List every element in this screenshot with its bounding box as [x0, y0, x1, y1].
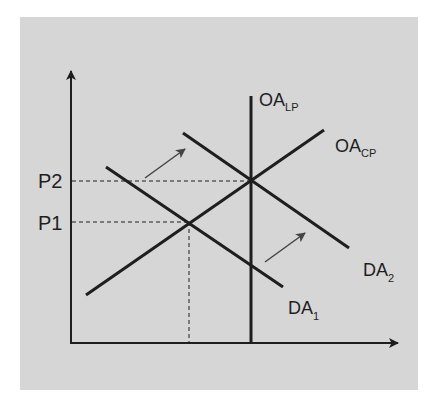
- da1-label-sub: 1: [313, 310, 319, 322]
- da1-label: DA1: [288, 298, 319, 322]
- da1-label-main: DA: [288, 298, 313, 318]
- p1-label: P1: [38, 212, 62, 234]
- oa-lp-label-sub: LP: [285, 101, 298, 113]
- da2-label: DA2: [363, 260, 394, 284]
- p2-label: P2: [38, 170, 62, 192]
- oa-cp-label-main: OA: [335, 136, 361, 156]
- da2-curve: [183, 133, 349, 248]
- oa-cp-curve: [86, 130, 324, 295]
- da2-label-sub: 2: [388, 272, 394, 284]
- oa-cp-label-sub: CP: [361, 147, 376, 159]
- ad-as-diagram: P2 P1 OALP OACP DA2 DA1: [0, 0, 431, 398]
- oa-cp-label: OACP: [335, 136, 376, 159]
- da2-label-main: DA: [363, 260, 388, 280]
- oa-lp-label: OALP: [259, 90, 298, 113]
- shift-arrow-lower-icon: [265, 233, 305, 262]
- oa-lp-label-main: OA: [259, 90, 285, 110]
- shift-arrow-upper-icon: [145, 149, 185, 178]
